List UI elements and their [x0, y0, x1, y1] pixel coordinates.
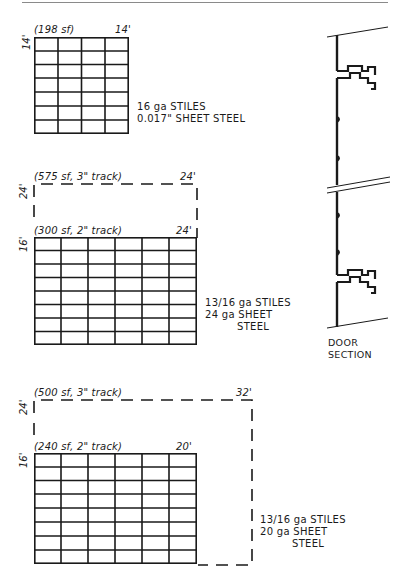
panel-2-spec-line-3: STEEL: [205, 321, 291, 333]
panel-2-outer-height-label: 24': [18, 184, 29, 199]
panel-2-spec-line-2: 24 ga SHEET: [205, 309, 291, 321]
panel-2-outer-width-label: 24': [180, 171, 196, 182]
panel-3-outer-height-label: 24': [18, 400, 29, 415]
panel-3-area-label: (240 sf, 2" track): [34, 441, 122, 452]
panel-3-height-label: 16': [18, 453, 29, 468]
panel-3-spec-line-2: 20 ga SHEET: [260, 526, 346, 538]
panel-2-outer-area-label: (575 sf, 3" track): [34, 171, 122, 182]
panel-1-spec-line-2: 0.017" SHEET STEEL: [137, 113, 245, 125]
panel-2-spec: 13/16 ga STILES 24 ga SHEET STEEL: [205, 297, 291, 333]
panel-3-outer-width-label: 32': [236, 387, 252, 398]
door-section-caption: DOOR SECTION: [328, 337, 372, 361]
panel-1-spec: 16 ga STILES 0.017" SHEET STEEL: [137, 101, 245, 125]
panel-3-spec: 13/16 ga STILES 20 ga SHEET STEEL: [260, 514, 346, 550]
panel-2-spec-line-1: 13/16 ga STILES: [205, 297, 291, 309]
door-section-caption-line-1: DOOR: [328, 337, 372, 349]
panel-1-height-label: 14': [21, 35, 32, 50]
door-section-profile: [310, 25, 395, 325]
panel-1-grid: [34, 37, 129, 134]
panel-1-spec-line-1: 16 ga STILES: [137, 101, 245, 113]
panel-3-width-label: 20': [176, 441, 192, 452]
panel-2-grid: [34, 237, 197, 345]
panel-3-spec-line-3: STEEL: [260, 538, 346, 550]
panel-1-area-label: (198 sf): [34, 24, 74, 35]
panel-3-outer-area-label: (500 sf, 3" track): [34, 387, 122, 398]
panel-3-spec-line-1: 13/16 ga STILES: [260, 514, 346, 526]
panel-2-height-label: 16': [18, 237, 29, 252]
panel-3-grid: [34, 453, 197, 564]
panel-2-area-label: (300 sf, 2" track): [34, 225, 122, 236]
header-rule: [22, 2, 388, 3]
panel-2-width-label: 24': [176, 225, 192, 236]
door-section-caption-line-2: SECTION: [328, 349, 372, 361]
panel-1-width-label: 14': [115, 24, 131, 35]
